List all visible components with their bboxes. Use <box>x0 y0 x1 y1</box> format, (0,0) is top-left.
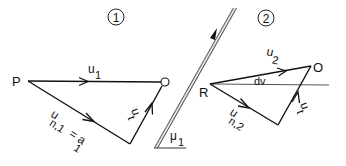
label-u2: u 2 <box>264 44 281 66</box>
label-mu1-sub: 1 <box>178 136 184 148</box>
point-o-label-2: O <box>313 60 323 75</box>
label-u2-sub: 2 <box>271 54 279 67</box>
angle-dv-label: dv <box>254 75 266 87</box>
label-un1: u n,1 = a 1 <box>40 107 92 155</box>
arrow-icon <box>83 113 95 122</box>
panel-1-number-badge: 1 <box>108 9 124 25</box>
diagram-canvas: 1 2 P u 1 u n,1 = a 1 u t <box>0 0 346 166</box>
label-mu1-base: μ <box>170 129 177 143</box>
label-mu1: μ 1 <box>170 129 184 148</box>
label-ut-2: u t <box>292 100 313 115</box>
label-un1-suffix-sub: 1 <box>72 141 84 154</box>
vector-un2-line <box>210 84 278 125</box>
label-u1: u 1 <box>88 62 101 81</box>
label-u1-base: u <box>88 62 95 76</box>
panel-2-number: 2 <box>263 12 270 26</box>
vector-ut-2-line <box>278 66 311 125</box>
panel-2-number-badge: 2 <box>258 10 274 26</box>
horizontal-reference-line <box>210 84 329 85</box>
vector-u1-line <box>28 81 161 82</box>
label-ut-1: u t <box>123 106 144 121</box>
label-ut-2-sub: t <box>295 108 307 115</box>
panel-1-number: 1 <box>113 11 120 25</box>
point-o-marker <box>161 78 169 86</box>
point-r-label: R <box>199 85 208 100</box>
arrow-icon <box>238 99 249 109</box>
panel-1-triangle <box>28 78 169 145</box>
label-ut-1-sub: t <box>126 114 138 121</box>
label-un2: u n,2 <box>223 105 251 133</box>
point-p-label: P <box>12 74 21 89</box>
label-u1-sub: 1 <box>95 69 101 81</box>
